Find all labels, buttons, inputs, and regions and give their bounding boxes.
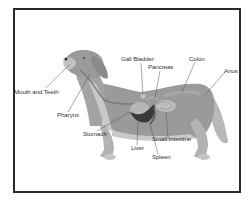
label-small-intestine: Small Intestine xyxy=(152,136,191,142)
label-colon: Colon xyxy=(189,56,205,62)
label-pharynx: Pharynx xyxy=(57,112,79,118)
label-liver: Liver xyxy=(131,145,144,151)
label-pancreas: Pancreas xyxy=(148,64,173,70)
label-gall-bladder: Gall Bladder xyxy=(121,56,154,62)
label-stomach: Stomach xyxy=(83,131,107,137)
label-spleen: Spleen xyxy=(152,154,171,160)
label-mouth-and-teeth: Mouth and Teeth xyxy=(14,89,58,95)
dog-anatomy-illustration xyxy=(0,0,251,208)
label-anus: Anus xyxy=(224,68,238,74)
